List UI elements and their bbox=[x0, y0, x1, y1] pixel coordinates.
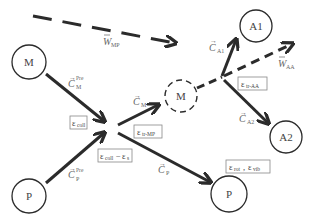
c-a2-label: → C A2 bbox=[239, 109, 254, 125]
reaction-diagram: W MP M P → C M Pre → C P Pre ε coll ε bbox=[0, 0, 309, 222]
svg-text:coll: coll bbox=[77, 122, 86, 128]
svg-text:A2: A2 bbox=[247, 119, 254, 125]
svg-text:M: M bbox=[176, 90, 186, 102]
svg-text:C: C bbox=[68, 169, 75, 180]
c-m-arrow bbox=[118, 105, 158, 125]
c-a1-label: → C A1 bbox=[209, 37, 224, 54]
svg-text:ε: ε bbox=[248, 162, 252, 172]
svg-text:coll: coll bbox=[105, 155, 114, 161]
svg-text:M: M bbox=[76, 84, 82, 90]
node-a2: A2 bbox=[270, 121, 302, 153]
svg-text:ε: ε bbox=[229, 162, 233, 172]
svg-text:Pre: Pre bbox=[76, 167, 84, 173]
svg-text:P: P bbox=[26, 190, 32, 202]
node-m-intermediate: M bbox=[165, 80, 197, 112]
svg-text:−: − bbox=[116, 151, 121, 161]
svg-text:,: , bbox=[243, 162, 245, 172]
svg-text:C: C bbox=[158, 164, 165, 175]
svg-text:P: P bbox=[226, 188, 232, 200]
svg-text:C: C bbox=[133, 96, 140, 107]
svg-text:ε: ε bbox=[72, 118, 76, 128]
svg-text:M: M bbox=[141, 102, 147, 108]
svg-text:A1: A1 bbox=[217, 48, 224, 54]
svg-text:ε: ε bbox=[100, 151, 104, 161]
c-m-label: → C M bbox=[133, 92, 147, 108]
svg-text:MP: MP bbox=[111, 42, 120, 48]
m-to-branch-dashed bbox=[197, 77, 222, 88]
box-eps-tr-mp: ε tr-MP bbox=[134, 125, 162, 138]
box-eps-tr-aa: ε tr-AA bbox=[238, 77, 267, 90]
node-m-left: M bbox=[12, 45, 46, 79]
c-p-pre-arrow bbox=[46, 133, 104, 183]
svg-text:M: M bbox=[24, 56, 34, 68]
node-a1: A1 bbox=[240, 10, 272, 42]
svg-text:ε: ε bbox=[241, 79, 245, 89]
node-p-left: P bbox=[12, 179, 46, 213]
c-a1-arrow bbox=[222, 40, 236, 76]
svg-text:ε: ε bbox=[122, 151, 126, 161]
svg-text:P: P bbox=[166, 170, 170, 176]
c-m-pre-label: → C M Pre bbox=[68, 74, 84, 90]
svg-text:ε: ε bbox=[137, 127, 141, 137]
svg-text:A1: A1 bbox=[249, 20, 262, 32]
svg-text:C: C bbox=[68, 78, 75, 89]
svg-text:tr-MP: tr-MP bbox=[142, 131, 155, 137]
svg-text:C: C bbox=[209, 42, 216, 53]
node-p-right: P bbox=[211, 176, 247, 212]
svg-text:s: s bbox=[127, 155, 129, 161]
svg-text:Pre: Pre bbox=[76, 75, 84, 81]
box-eps-coll: ε coll bbox=[70, 116, 87, 129]
c-p-pre-label: → C P Pre bbox=[68, 165, 84, 182]
box-eps-coll-minus-eps-s: ε coll − ε s bbox=[98, 149, 132, 162]
svg-text:tr-AA: tr-AA bbox=[246, 83, 259, 89]
svg-text:C: C bbox=[239, 113, 246, 124]
box-eps-rot-vib: ε rot , ε vib bbox=[226, 160, 270, 173]
c-p-label: → C P bbox=[158, 160, 170, 176]
w-aa-label: W AA bbox=[278, 57, 295, 70]
svg-text:A2: A2 bbox=[279, 131, 292, 143]
svg-text:AA: AA bbox=[286, 64, 295, 70]
svg-text:rot: rot bbox=[234, 166, 241, 172]
w-mp-label: W MP bbox=[103, 35, 120, 48]
svg-text:P: P bbox=[76, 176, 80, 182]
svg-text:vib: vib bbox=[253, 166, 260, 172]
